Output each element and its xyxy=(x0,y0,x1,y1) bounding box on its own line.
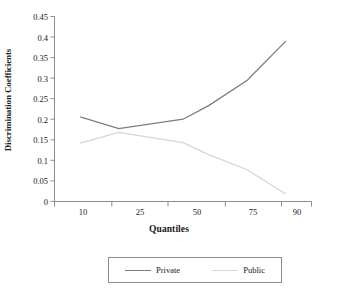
x-tick-label: 75 xyxy=(238,208,268,217)
legend-entry-public: Public xyxy=(212,266,265,275)
x-tick-label: 10 xyxy=(68,208,98,217)
x-axis-title: Quantiles xyxy=(53,224,285,234)
legend-entry-private: Private xyxy=(125,266,180,275)
x-tick-label: 90 xyxy=(282,208,312,217)
x-axis-tick-labels: 10 25 50 75 90 xyxy=(0,0,344,293)
legend-label-public: Public xyxy=(243,266,265,275)
legend-label-private: Private xyxy=(156,266,180,275)
legend-line-swatch-private xyxy=(125,270,151,271)
x-tick-label: 50 xyxy=(182,208,212,217)
x-tick-label: 25 xyxy=(125,208,155,217)
chart-legend: Private Public xyxy=(108,257,282,283)
chart-figure: Discrimination Coefficients 0.45 0.4 0.3… xyxy=(0,0,344,293)
legend-line-swatch-public xyxy=(212,270,238,271)
